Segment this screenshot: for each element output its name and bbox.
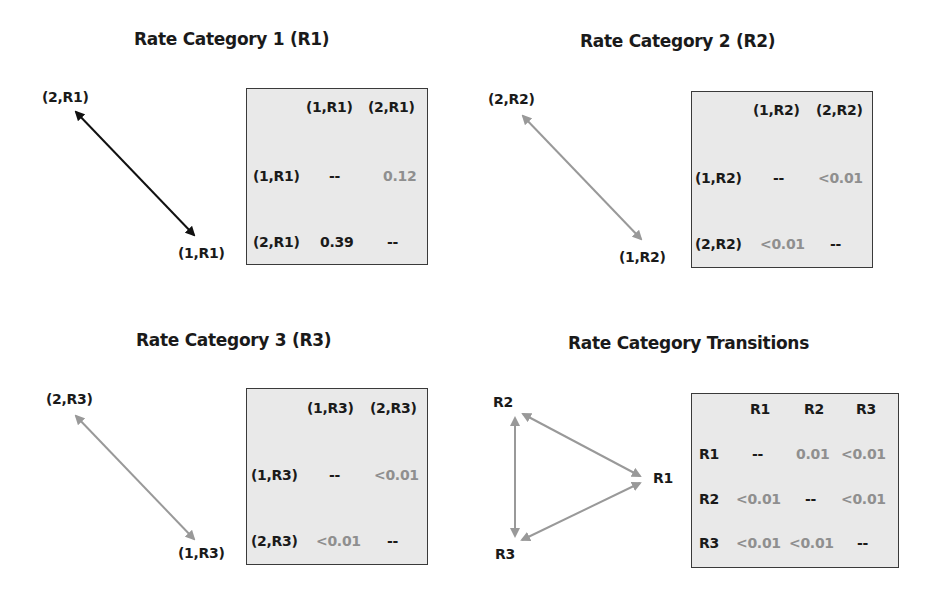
transition-arrow-r1: [76, 112, 194, 235]
table-cell: <0.01: [760, 236, 805, 252]
col-header: (2,R2): [816, 102, 863, 118]
table-cell: --: [329, 168, 340, 184]
transition-arrow-r3: [76, 416, 194, 539]
node-1-r3: (1,R3): [178, 545, 225, 561]
row-header: (1,R2): [695, 170, 742, 186]
node-2-r1: (2,R1): [42, 89, 89, 105]
col-header: (1,R1): [306, 99, 353, 115]
table-cell: <0.01: [316, 533, 361, 549]
row-header: R2: [699, 491, 719, 507]
node-r2: R2: [493, 394, 513, 410]
table-cell: <0.01: [789, 535, 834, 551]
table-cell: <0.01: [374, 467, 419, 483]
row-header: R1: [699, 446, 719, 462]
table-cell: <0.01: [736, 535, 781, 551]
panel-title-r1: Rate Category 1 (R1): [134, 29, 329, 49]
col-header: R3: [856, 401, 876, 417]
table-cell: --: [773, 170, 784, 186]
transition-arrow-r3-r1: [522, 483, 640, 540]
rate-transition-table: R1 R2 R3 R1 -- 0.01 <0.01 R2 <0.01 -- <0…: [691, 393, 899, 568]
table-cell: <0.01: [736, 491, 781, 507]
table-cell: 0.12: [383, 168, 416, 184]
table-cell: 0.01: [796, 446, 829, 462]
node-2-r3: (2,R3): [46, 391, 93, 407]
node-1-r2: (1,R2): [619, 249, 666, 265]
table-cell: --: [752, 446, 763, 462]
table-cell: <0.01: [841, 491, 886, 507]
row-header: (1,R1): [253, 168, 300, 184]
row-header: (2,R1): [253, 234, 300, 250]
row-header: (1,R3): [251, 467, 298, 483]
col-header: R1: [750, 401, 770, 417]
node-r3: R3: [495, 546, 515, 562]
node-r1: R1: [653, 470, 673, 486]
col-header: (2,R3): [370, 400, 417, 416]
col-header: (2,R1): [368, 99, 415, 115]
node-1-r1: (1,R1): [178, 245, 225, 261]
table-cell: <0.01: [818, 170, 863, 186]
panel-title-r3: Rate Category 3 (R3): [136, 330, 331, 350]
node-2-r2: (2,R2): [488, 91, 535, 107]
col-header: (1,R3): [307, 400, 354, 416]
row-header: (2,R3): [251, 533, 298, 549]
panel-title-transitions: Rate Category Transitions: [568, 333, 809, 353]
table-cell: <0.01: [841, 446, 886, 462]
row-header: R3: [699, 535, 719, 551]
table-cell: --: [329, 467, 340, 483]
table-cell: --: [857, 535, 868, 551]
transition-arrow-r2: [523, 116, 641, 239]
table-cell: --: [805, 491, 816, 507]
table-cell: --: [387, 533, 398, 549]
table-cell: --: [387, 234, 398, 250]
transition-arrow-r2-r1: [523, 414, 640, 476]
panel-title-r2: Rate Category 2 (R2): [580, 31, 775, 51]
rate-table-r1: (1,R1) (2,R1) (1,R1) -- 0.12 (2,R1) 0.39…: [246, 88, 428, 265]
table-cell: --: [830, 236, 841, 252]
col-header: R2: [804, 401, 824, 417]
table-cell: 0.39: [320, 234, 353, 250]
col-header: (1,R2): [753, 102, 800, 118]
rate-table-r3: (1,R3) (2,R3) (1,R3) -- <0.01 (2,R3) <0.…: [246, 388, 428, 565]
rate-table-r2: (1,R2) (2,R2) (1,R2) -- <0.01 (2,R2) <0.…: [691, 91, 873, 268]
row-header: (2,R2): [695, 236, 742, 252]
